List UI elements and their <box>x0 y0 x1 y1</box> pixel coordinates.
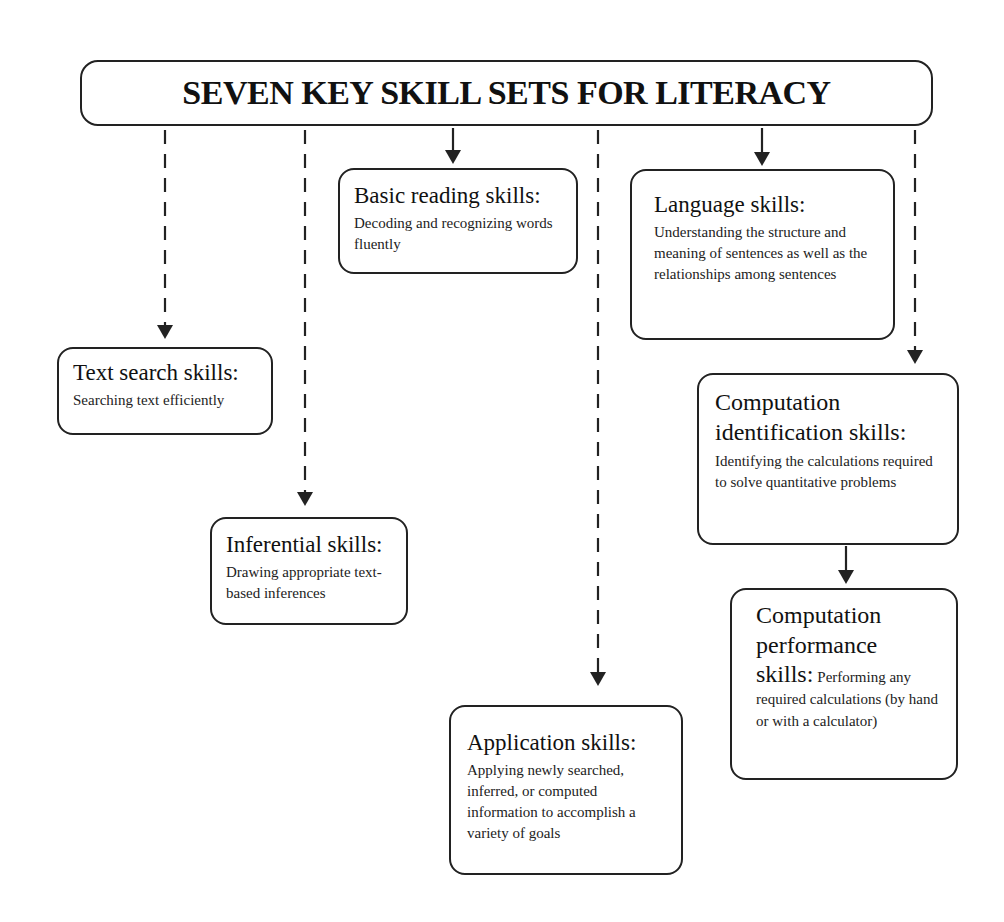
skill-description: Understanding the structure and meaning … <box>654 222 879 285</box>
skill-description: Applying newly searched, inferred, or co… <box>467 760 667 844</box>
skill-heading: Basic reading skills: <box>354 182 562 209</box>
skill-heading: Inferential skills: <box>226 531 392 558</box>
arrowhead-icon <box>907 350 923 364</box>
skill-description: Searching text efficiently <box>73 390 257 411</box>
skill-heading: Text search skills: <box>73 359 257 386</box>
skills-diagram: SEVEN KEY SKILL SETS FOR LITERACY Text s… <box>0 0 1004 922</box>
skill-box-computation-identification: Computation identification skills: Ident… <box>697 373 959 545</box>
skill-heading: Application skills: <box>467 729 667 756</box>
arrowhead-icon <box>590 672 606 686</box>
skill-box-basic-reading: Basic reading skills: Decoding and recog… <box>338 168 578 274</box>
skill-description: Drawing appropriate text-based inference… <box>226 562 392 604</box>
skill-box-inferential: Inferential skills: Drawing appropriate … <box>210 517 408 625</box>
skill-box-text-search: Text search skills: Searching text effic… <box>57 347 273 435</box>
arrowhead-icon <box>445 150 461 164</box>
skill-description: Identifying the calculations required to… <box>715 451 943 493</box>
skill-box-language: Language skills: Understanding the struc… <box>630 169 895 340</box>
skill-heading: Computation identification skills: <box>715 387 943 447</box>
title-box: SEVEN KEY SKILL SETS FOR LITERACY <box>80 60 933 126</box>
diagram-title: SEVEN KEY SKILL SETS FOR LITERACY <box>182 74 830 112</box>
arrowhead-icon <box>838 570 854 584</box>
skill-box-application: Application skills: Applying newly searc… <box>449 705 683 875</box>
skill-box-computation-performance: Computation performance skills: Performi… <box>730 588 958 780</box>
skill-heading-line: performance <box>756 630 942 660</box>
skill-heading-line: skills: <box>756 661 813 687</box>
arrowhead-icon <box>157 325 173 339</box>
skill-heading: Language skills: <box>654 191 879 218</box>
arrowhead-icon <box>754 152 770 166</box>
arrowhead-icon <box>297 492 313 506</box>
skill-description: Decoding and recognizing words fluently <box>354 213 562 255</box>
skill-heading-line: Computation <box>756 600 942 630</box>
